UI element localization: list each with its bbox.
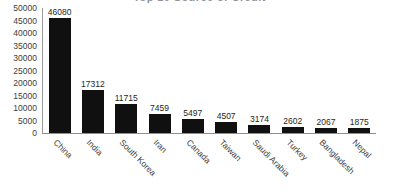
- y-axis-tick-label: 50000: [0, 4, 37, 12]
- chart-title: Top 10 Source of Credit: [0, 0, 399, 3]
- bar: [82, 90, 104, 133]
- y-axis-tick-label: 30000: [0, 54, 37, 62]
- bar: [49, 18, 71, 133]
- bar-value-label: 46080: [48, 8, 72, 17]
- bar: [348, 128, 370, 133]
- x-axis-category-labels: ChinaIndiaSouth KoreaIranCanadaTaiwanSau…: [43, 136, 376, 192]
- bar: [182, 119, 204, 133]
- bar-value-label: 3174: [250, 115, 269, 124]
- bar-group: 2602: [276, 8, 309, 133]
- bar: [248, 125, 270, 133]
- bar: [149, 114, 171, 133]
- x-axis-category-label: Canada: [184, 138, 211, 165]
- x-axis-label-group: China: [43, 136, 76, 192]
- bar-value-label: 2602: [283, 117, 302, 126]
- bar-value-label: 1875: [350, 118, 369, 127]
- bar-value-label: 17312: [81, 80, 105, 89]
- x-axis-category-label: Taiwan: [218, 138, 243, 163]
- x-axis-line: [42, 133, 376, 134]
- bar: [315, 128, 337, 133]
- bar-series: 4608017312117157459549745073174260220671…: [43, 8, 376, 133]
- bar-group: 11715: [110, 8, 143, 133]
- chart-screenshot: Top 10 Source of Credit 5000045000400003…: [0, 0, 399, 192]
- x-axis-category-label: India: [85, 138, 104, 157]
- x-axis-label-group: Bangladesh: [309, 136, 342, 192]
- x-axis-category-label: Turkey: [284, 138, 309, 163]
- bar: [115, 104, 137, 133]
- y-axis-tick-labels: 5000045000400003500030000250002000015000…: [0, 8, 37, 134]
- bar-group: 3174: [243, 8, 276, 133]
- x-axis-label-group: India: [76, 136, 109, 192]
- y-axis-tick-label: 40000: [0, 29, 37, 37]
- bar-group: 4507: [210, 8, 243, 133]
- bar-group: 5497: [176, 8, 209, 133]
- x-axis-label-group: Nepal: [343, 136, 376, 192]
- bar-value-label: 11715: [115, 94, 138, 103]
- x-axis-category-label: Iran: [151, 138, 168, 155]
- bar: [215, 122, 237, 133]
- bar-value-label: 7459: [150, 104, 169, 113]
- y-axis-tick-label: 45000: [0, 17, 37, 25]
- bar-group: 46080: [43, 8, 76, 133]
- x-axis-label-group: South Korea: [110, 136, 143, 192]
- x-axis-label-group: Saudi Arabia: [243, 136, 276, 192]
- bar-value-label: 5497: [183, 109, 202, 118]
- bar-value-label: 4507: [217, 112, 236, 121]
- bar-group: 1875: [343, 8, 376, 133]
- bar-group: 7459: [143, 8, 176, 133]
- y-axis-tick-label: 10000: [0, 104, 37, 112]
- y-axis-tick-label: 20000: [0, 79, 37, 87]
- bar-group: 17312: [76, 8, 109, 133]
- bar: [282, 127, 304, 134]
- y-axis-tick-label: 0: [0, 129, 37, 137]
- x-axis-label-group: Canada: [176, 136, 209, 192]
- y-axis-tick-label: 5000: [0, 117, 37, 125]
- x-axis-label-group: Iran: [143, 136, 176, 192]
- x-axis-label-group: Turkey: [276, 136, 309, 192]
- y-axis-tick-label: 35000: [0, 42, 37, 50]
- y-axis-tick-label: 15000: [0, 92, 37, 100]
- bar-value-label: 2067: [317, 118, 336, 127]
- bar-group: 2067: [309, 8, 342, 133]
- y-axis-tick-label: 25000: [0, 67, 37, 75]
- x-axis-category-label: Nepal: [351, 138, 373, 160]
- x-axis-category-label: China: [51, 138, 73, 160]
- x-axis-label-group: Taiwan: [210, 136, 243, 192]
